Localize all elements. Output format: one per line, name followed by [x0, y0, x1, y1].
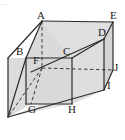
vertex-label-I: I	[107, 80, 111, 91]
vertex-label-G: G	[28, 104, 36, 115]
vertex-label-H: H	[68, 104, 76, 115]
vertex-label-F: F	[33, 55, 39, 66]
vertex-label-B: B	[16, 46, 23, 57]
vertex-label-J: J	[114, 62, 118, 73]
vertex-label-D: D	[98, 27, 106, 38]
vertex-label-E: E	[110, 10, 117, 21]
geometry-figure: ...	[0, 0, 125, 140]
solid-figure-svg	[0, 0, 125, 140]
vertex-label-A: A	[37, 10, 45, 21]
vertex-label-C: C	[63, 46, 70, 57]
